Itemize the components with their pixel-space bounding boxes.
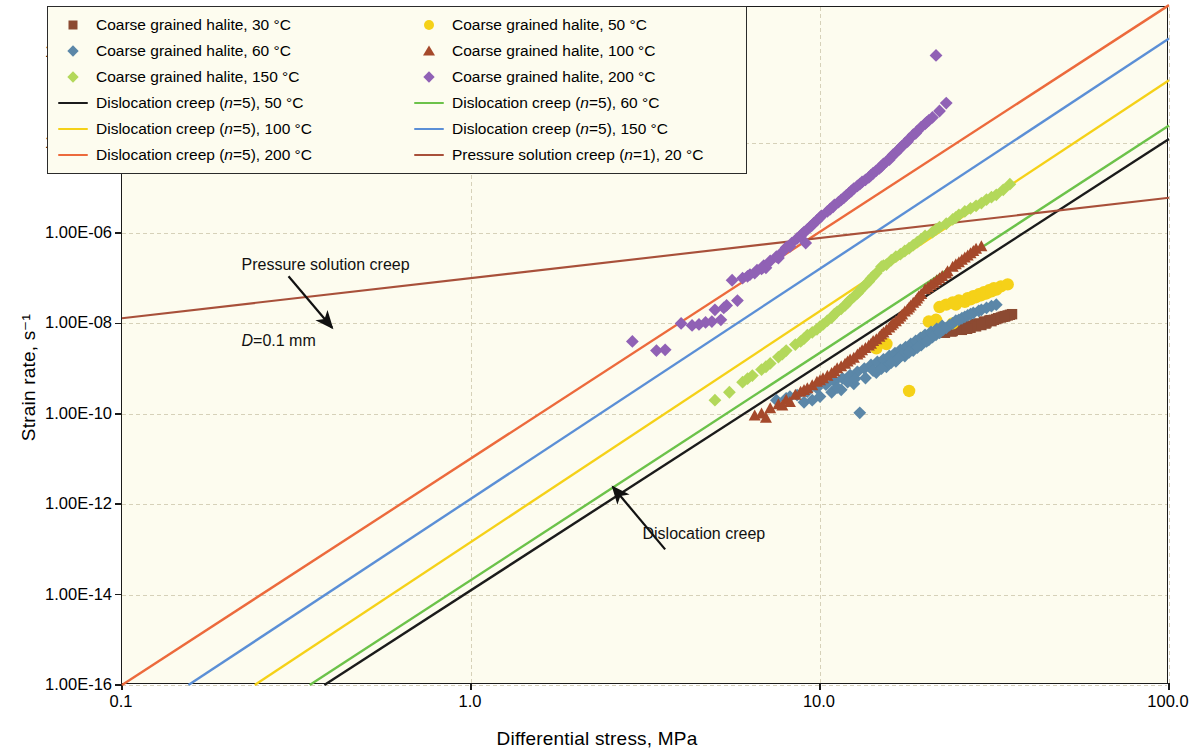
legend-halite-60c[interactable]: Coarse grained halite, 60 °C bbox=[58, 40, 400, 61]
legend-line-swatch bbox=[414, 147, 444, 163]
legend-halite-100c[interactable]: Coarse grained halite, 100 °C bbox=[414, 40, 756, 61]
legend-dislocation-50c[interactable]: Dislocation creep (n=5), 50 °C bbox=[58, 92, 400, 113]
legend-label: Pressure solution creep (n=1), 20 °C bbox=[452, 147, 703, 163]
legend-marker-diamond-icon bbox=[414, 69, 444, 85]
x-axis-tick-label: 10.0 bbox=[779, 692, 859, 711]
legend-dislocation-150c[interactable]: Dislocation creep (n=5), 150 °C bbox=[414, 118, 756, 139]
y-axis-tick bbox=[115, 323, 122, 325]
y-axis-tick-label: 1.00E-10 bbox=[0, 404, 112, 423]
legend-halite-200c[interactable]: Coarse grained halite, 200 °C bbox=[414, 66, 756, 87]
legend-halite-30c[interactable]: Coarse grained halite, 30 °C bbox=[58, 14, 400, 35]
line-swatch bbox=[58, 102, 88, 105]
legend-label: Coarse grained halite, 50 °C bbox=[452, 17, 647, 33]
legend-marker-circle-icon bbox=[414, 17, 444, 33]
legend-line-swatch bbox=[58, 121, 88, 137]
legend-label: Dislocation creep (n=5), 60 °C bbox=[452, 95, 659, 111]
legend-dislocation-100c[interactable]: Dislocation creep (n=5), 100 °C bbox=[58, 118, 400, 139]
legend-label: Coarse grained halite, 60 °C bbox=[96, 43, 291, 59]
legend-label: Coarse grained halite, 100 °C bbox=[452, 43, 656, 59]
line-swatch bbox=[58, 128, 88, 131]
x-axis-tick bbox=[470, 683, 472, 690]
legend-marker-diamond-icon bbox=[58, 43, 88, 59]
y-axis-tick bbox=[115, 413, 122, 415]
legend-halite-50c[interactable]: Coarse grained halite, 50 °C bbox=[414, 14, 756, 35]
line-swatch bbox=[58, 154, 88, 157]
legend-marker-triangle-icon bbox=[414, 43, 444, 59]
chart-legend: Coarse grained halite, 30 °CCoarse grain… bbox=[47, 6, 747, 174]
marker-swatch bbox=[67, 71, 78, 82]
y-axis-tick-label: 1.00E-08 bbox=[0, 313, 112, 332]
legend-marker-diamond-icon bbox=[58, 69, 88, 85]
gridline-horizontal bbox=[122, 685, 1167, 686]
y-axis-tick bbox=[115, 503, 122, 505]
legend-label: Dislocation creep (n=5), 100 °C bbox=[96, 121, 312, 137]
marker-swatch bbox=[424, 20, 434, 30]
legend-dislocation-200c[interactable]: Dislocation creep (n=5), 200 °C bbox=[58, 144, 400, 165]
legend-label: Coarse grained halite, 30 °C bbox=[96, 17, 291, 33]
legend-marker-square-icon bbox=[58, 17, 88, 33]
legend-label: Dislocation creep (n=5), 50 °C bbox=[96, 95, 303, 111]
legend-line-swatch bbox=[58, 147, 88, 163]
marker-swatch bbox=[423, 71, 434, 82]
x-axis-tick bbox=[1168, 683, 1170, 690]
marker-swatch bbox=[69, 20, 78, 29]
legend-label: Coarse grained halite, 200 °C bbox=[452, 69, 656, 85]
legend-label: Dislocation creep (n=5), 150 °C bbox=[452, 121, 668, 137]
legend-line-swatch bbox=[414, 95, 444, 111]
x-axis-title: Differential stress, MPa bbox=[0, 728, 1194, 750]
y-axis-tick-label: 1.00E-14 bbox=[0, 585, 112, 604]
legend-label: Coarse grained halite, 150 °C bbox=[96, 69, 300, 85]
x-axis-tick bbox=[819, 683, 821, 690]
gridline-vertical bbox=[1169, 7, 1170, 683]
y-axis-title: Strain rate, s⁻¹ bbox=[17, 258, 40, 498]
legend-label: Dislocation creep (n=5), 200 °C bbox=[96, 147, 312, 163]
annotation-dislocation-creep: Dislocation creep bbox=[642, 525, 765, 543]
x-axis-tick-label: 1.0 bbox=[430, 692, 510, 711]
annotation-arrow bbox=[289, 276, 333, 327]
line-swatch bbox=[414, 154, 444, 157]
legend-dislocation-60c[interactable]: Dislocation creep (n=5), 60 °C bbox=[414, 92, 756, 113]
y-axis-tick-label: 1.00E-06 bbox=[0, 223, 112, 242]
legend-line-swatch bbox=[414, 121, 444, 137]
legend-halite-150c[interactable]: Coarse grained halite, 150 °C bbox=[58, 66, 400, 87]
y-axis-tick bbox=[115, 594, 122, 596]
line-swatch bbox=[414, 102, 444, 105]
legend-pressure-solution-20c[interactable]: Pressure solution creep (n=1), 20 °C bbox=[414, 144, 756, 165]
line-swatch bbox=[414, 128, 444, 131]
annotation-pressure-solution-creep: Pressure solution creep bbox=[242, 256, 410, 274]
marker-swatch bbox=[67, 45, 78, 56]
marker-swatch bbox=[423, 45, 435, 55]
y-axis-tick-label: 1.00E-12 bbox=[0, 494, 112, 513]
chart-figure: Strain rate, s⁻¹ Differential stress, MP… bbox=[0, 0, 1194, 756]
legend-line-swatch bbox=[58, 95, 88, 111]
x-axis-tick-label: 0.1 bbox=[81, 692, 161, 711]
x-axis-tick-label: 100.0 bbox=[1128, 692, 1194, 711]
annotation-grain-size: D=0.1 mm bbox=[242, 332, 316, 350]
y-axis-tick bbox=[115, 232, 122, 234]
